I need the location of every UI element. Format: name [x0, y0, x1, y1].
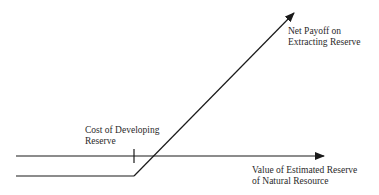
payoff-line-label-line-2: Extracting Reserve	[288, 37, 361, 48]
x-axis-label: Value of Estimated Reserve of Natural Re…	[252, 165, 357, 187]
payoff-rising-arrow	[134, 13, 294, 176]
cost-marker-label: Cost of Developing Reserve	[85, 125, 159, 147]
payoff-line-label: Net Payoff on Extracting Reserve	[288, 26, 361, 48]
x-axis-label-line-2: of Natural Resource	[252, 176, 357, 187]
cost-marker-label-line-2: Reserve	[85, 136, 159, 147]
cost-marker-label-line-1: Cost of Developing	[85, 125, 159, 136]
x-axis-label-line-1: Value of Estimated Reserve	[252, 165, 357, 176]
payoff-line-label-line-1: Net Payoff on	[288, 26, 361, 37]
